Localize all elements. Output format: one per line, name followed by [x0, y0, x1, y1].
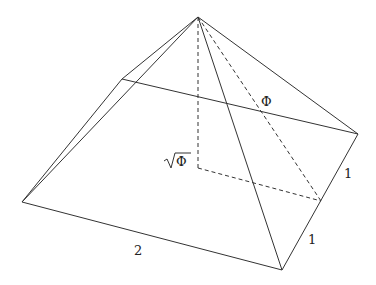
label-base-side: 2: [134, 243, 142, 258]
edge-back-left-to-left: [22, 79, 122, 202]
edge-apex-left: [22, 17, 198, 202]
label-half-side-lower: 1: [308, 232, 316, 247]
pyramid-diagram: Φ Φ 2 1 1: [0, 0, 376, 285]
edge-base-back: [122, 79, 358, 134]
edge-apex-back-left: [122, 17, 198, 79]
label-half-side-upper: 1: [344, 166, 352, 181]
label-height: Φ: [164, 153, 191, 169]
edge-apex-front: [198, 17, 282, 270]
slant-height-line: [198, 17, 321, 201]
label-slant-height: Φ: [261, 94, 272, 109]
edge-base-front-right: [282, 134, 358, 270]
base-center-to-midpoint: [198, 168, 321, 201]
edge-apex-right: [198, 17, 358, 134]
edge-base-front-left: [22, 202, 282, 270]
svg-text:Φ: Φ: [176, 154, 187, 169]
